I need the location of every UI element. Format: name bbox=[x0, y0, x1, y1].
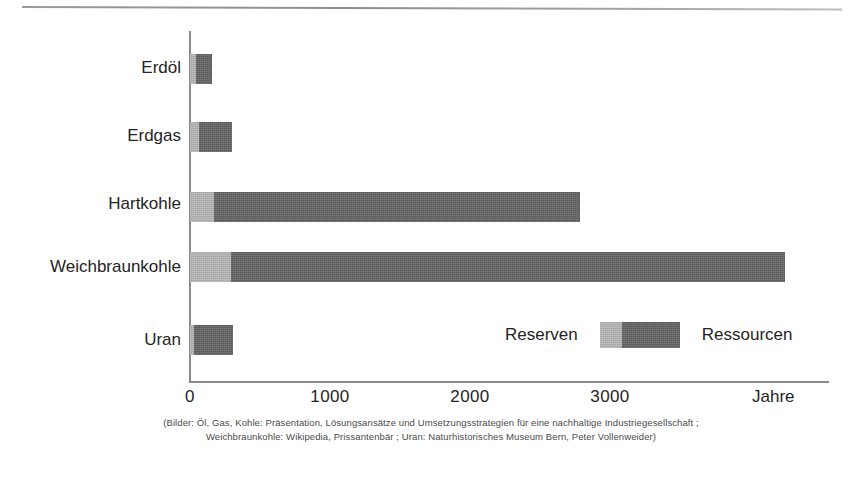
bar-hartkohle[interactable] bbox=[190, 192, 580, 222]
legend-swatch-ressourcen bbox=[622, 322, 680, 348]
bar-segment-ressourcen bbox=[199, 122, 232, 152]
bar-erdgas[interactable] bbox=[190, 122, 232, 152]
chart-figure: Erdöl Erdgas Hartkohle Weichbraunkohle U… bbox=[0, 0, 862, 481]
figure-caption-line-2: Weichbraunkohle: Wikipedia, Prissantenbä… bbox=[0, 430, 862, 444]
legend-label-reserven: Reserven bbox=[505, 325, 578, 345]
x-axis-line bbox=[189, 381, 829, 383]
x-tick-label-3000: 3000 bbox=[570, 387, 650, 407]
category-label-hartkohle: Hartkohle bbox=[0, 194, 181, 214]
figure-caption: (Bilder: Öl, Gas, Kohle: Präsentation, L… bbox=[0, 416, 862, 444]
bar-erdoel[interactable] bbox=[190, 54, 212, 84]
figure-caption-line-1: (Bilder: Öl, Gas, Kohle: Präsentation, L… bbox=[0, 416, 862, 430]
legend-swatch-reserven bbox=[600, 322, 622, 348]
x-tick-label-1000: 1000 bbox=[290, 387, 370, 407]
x-axis-unit-label: Jahre bbox=[752, 387, 795, 407]
category-label-erdoel: Erdöl bbox=[0, 58, 181, 78]
legend-label-ressourcen: Ressourcen bbox=[702, 325, 793, 345]
bar-uran[interactable] bbox=[190, 325, 233, 355]
bar-segment-reserven bbox=[190, 192, 214, 222]
legend-swatch bbox=[600, 322, 680, 348]
bar-segment-ressourcen bbox=[194, 325, 234, 355]
category-label-erdgas: Erdgas bbox=[0, 126, 181, 146]
bar-segment-ressourcen bbox=[196, 54, 211, 84]
bar-segment-ressourcen bbox=[231, 252, 785, 282]
x-tick-label-2000: 2000 bbox=[430, 387, 510, 407]
bar-weichbraunkohle[interactable] bbox=[190, 252, 785, 282]
x-tick-label-0: 0 bbox=[150, 387, 230, 407]
category-label-uran: Uran bbox=[0, 330, 181, 350]
chart-legend: Reserven Ressourcen bbox=[505, 322, 792, 348]
category-label-weichbraunkohle: Weichbraunkohle bbox=[0, 257, 181, 277]
bar-segment-reserven bbox=[190, 252, 231, 282]
chart-plot-area: Erdöl Erdgas Hartkohle Weichbraunkohle U… bbox=[0, 0, 862, 481]
bar-segment-ressourcen bbox=[214, 192, 580, 222]
bar-segment-reserven bbox=[190, 122, 199, 152]
